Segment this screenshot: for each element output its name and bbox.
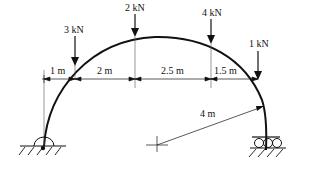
svg-text:2 kN: 2 kN (125, 2, 145, 13)
load-1kn: 1 kN (249, 38, 269, 80)
load-4kn: 4 kN (202, 7, 222, 44)
radius-label: 4 m (200, 108, 216, 119)
arch-member (44, 37, 266, 150)
dim-label-1m: 1 m (50, 65, 66, 76)
dim-label-2m: 2 m (97, 65, 113, 76)
dim-label-1.5m: 1.5 m (214, 65, 237, 76)
radius-arrowhead (256, 106, 264, 111)
roller-support (249, 137, 286, 157)
center-mark (146, 136, 168, 152)
arch-diagram: 1 m 2 m 2.5 m 1.5 m 3 kN 2 kN 4 kN 1 kN … (0, 0, 309, 170)
load-3kn: 3 kN (64, 24, 84, 66)
load-2kn: 2 kN (125, 2, 145, 37)
dim-label-2.5m: 2.5 m (161, 65, 184, 76)
svg-text:4 kN: 4 kN (202, 7, 222, 18)
svg-text:3 kN: 3 kN (64, 24, 84, 35)
pin-support (19, 137, 66, 155)
svg-text:1 kN: 1 kN (249, 38, 269, 49)
